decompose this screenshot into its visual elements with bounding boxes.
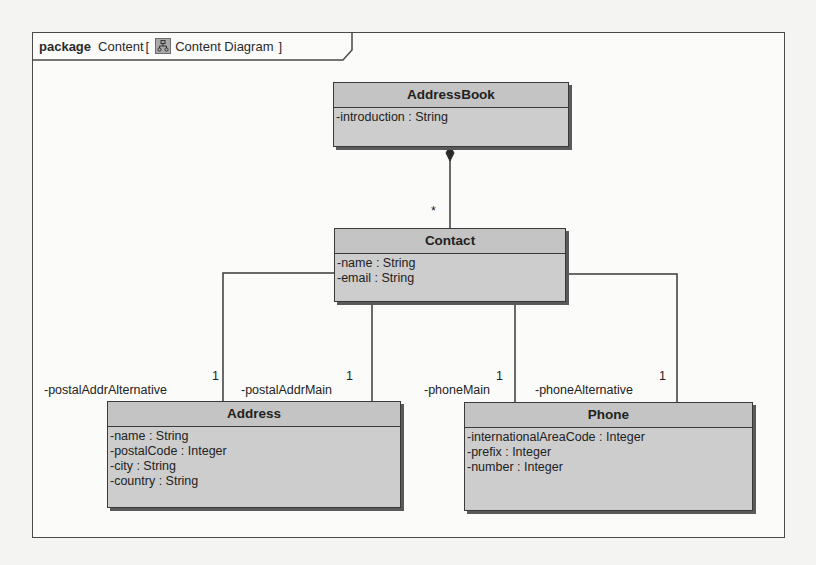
multiplicity-phone-main: 1 <box>496 369 503 383</box>
class-name: Phone <box>465 403 752 428</box>
class-phone[interactable]: Phone -internationalAreaCode : Integer -… <box>464 402 753 511</box>
attribute: -name : String <box>337 256 563 271</box>
multiplicity-contact: * <box>431 204 436 218</box>
attribute: -country : String <box>110 474 398 489</box>
attribute: -email : String <box>337 271 563 286</box>
attribute: -postalCode : Integer <box>110 444 398 459</box>
multiplicity-postal-main: 1 <box>346 369 353 383</box>
multiplicity-postal-alt: 1 <box>212 369 219 383</box>
class-contact[interactable]: Contact -name : String -email : String <box>334 228 566 302</box>
attribute-compartment: -name : String -email : String <box>335 254 565 300</box>
attribute: -name : String <box>110 429 398 444</box>
frame-header: package Content [ Content Diagram ] <box>32 32 352 60</box>
role-phone-alt: -phoneAlternative <box>535 383 633 397</box>
class-name: AddressBook <box>334 83 568 108</box>
composition-diamond-icon <box>446 146 454 161</box>
role-postal-main: -postalAddrMain <box>241 383 332 397</box>
class-address[interactable]: Address -name : String -postalCode : Int… <box>107 401 401 508</box>
class-name: Address <box>108 402 400 427</box>
attribute-compartment: -internationalAreaCode : Integer -prefix… <box>465 428 752 509</box>
package-name: Content <box>98 39 144 54</box>
attribute: -city : String <box>110 459 398 474</box>
role-phone-main: -phoneMain <box>424 383 490 397</box>
class-name: Contact <box>335 229 565 254</box>
role-postal-alt: -postalAddrAlternative <box>44 383 167 397</box>
multiplicity-phone-alt: 1 <box>659 369 666 383</box>
attribute: -prefix : Integer <box>467 445 750 460</box>
class-diagram-icon[interactable] <box>155 38 171 54</box>
attribute-compartment: -introduction : String <box>334 108 568 145</box>
attribute: -introduction : String <box>336 110 566 125</box>
open-bracket: [ <box>146 39 150 54</box>
class-addressbook[interactable]: AddressBook -introduction : String <box>333 82 569 147</box>
attribute-compartment: -name : String -postalCode : Integer -ci… <box>108 427 400 506</box>
assoc-postal-alt <box>223 273 334 401</box>
close-bracket: ] <box>279 39 283 54</box>
attribute: -number : Integer <box>467 460 750 475</box>
attribute: -internationalAreaCode : Integer <box>467 430 750 445</box>
diagram-name[interactable]: Content Diagram <box>175 39 273 54</box>
frame-keyword: package <box>39 39 91 54</box>
